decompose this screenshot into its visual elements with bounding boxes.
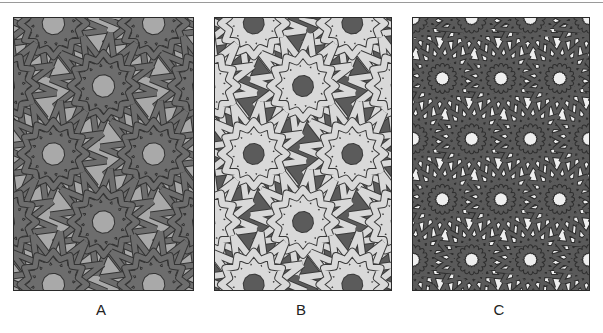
interlace-pattern-b <box>215 18 391 290</box>
pattern-panel-c <box>412 17 590 291</box>
pattern-panel-a <box>13 17 194 291</box>
interlace-pattern-c <box>413 18 589 290</box>
pattern-panel-b <box>214 17 392 291</box>
top-rule-line <box>0 2 603 3</box>
panel-label-b: B <box>281 301 321 318</box>
panel-label-a: A <box>81 301 121 318</box>
panel-label-c: C <box>479 301 519 318</box>
interlace-pattern-a <box>14 18 193 290</box>
